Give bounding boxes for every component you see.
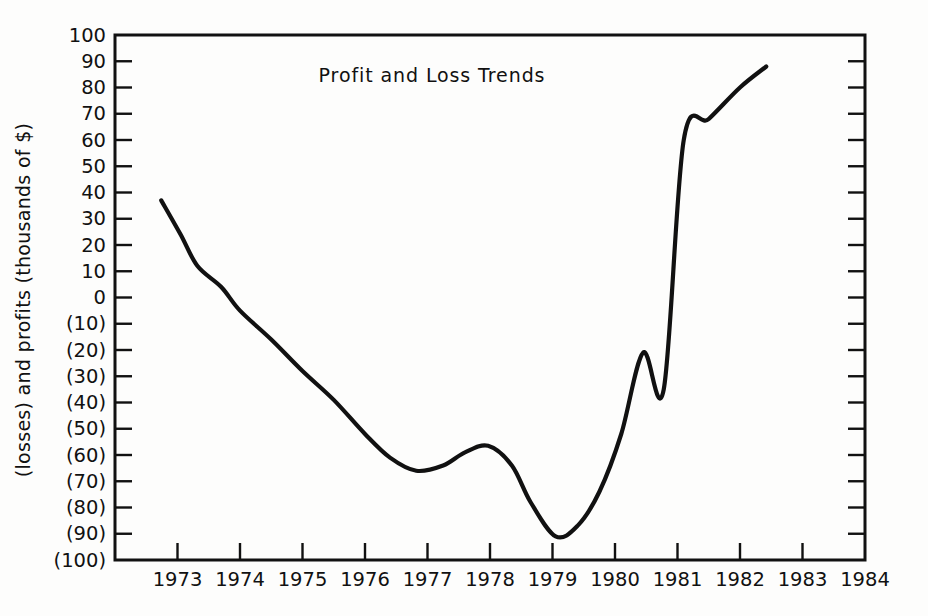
y-tick-label: 30 — [81, 207, 106, 230]
x-tick-label: 1982 — [715, 568, 765, 591]
y-tick-label: (40) — [66, 391, 106, 414]
y-tick-label: (50) — [66, 417, 106, 440]
y-tick-label: (30) — [66, 365, 106, 388]
y-axis-label: (losses) and profits (thousands of $) — [12, 123, 34, 477]
x-tick-label: 1984 — [840, 568, 890, 591]
x-tick-label: 1975 — [278, 568, 328, 591]
data-series-line — [161, 67, 766, 538]
y-tick-label: (90) — [66, 522, 106, 545]
y-tick-label: 0 — [94, 286, 106, 309]
y-tick-label: 90 — [81, 50, 106, 73]
y-tick-label: (60) — [66, 444, 106, 467]
y-tick-label: (20) — [66, 339, 106, 362]
x-tick-label: 1980 — [590, 568, 640, 591]
x-axis-ticks — [178, 543, 803, 560]
y-tick-label: 20 — [81, 234, 106, 257]
x-tick-label: 1983 — [778, 568, 828, 591]
x-tick-label: 1977 — [403, 568, 453, 591]
y-tick-label: 10 — [81, 260, 106, 283]
x-tick-label: 1981 — [653, 568, 703, 591]
x-axis-tick-labels: 1973197419751976197719781979198019811982… — [153, 568, 890, 591]
y-axis-ticks — [115, 61, 132, 534]
y-tick-label: 60 — [81, 129, 106, 152]
y-tick-label: 40 — [81, 181, 106, 204]
x-tick-label: 1979 — [528, 568, 578, 591]
y-tick-label: (80) — [66, 496, 106, 519]
y-tick-label: 80 — [81, 76, 106, 99]
y-tick-label: (10) — [66, 312, 106, 335]
x-tick-label: 1976 — [340, 568, 390, 591]
profit-loss-line-chart: 1009080706050403020100(10)(20)(30)(40)(5… — [0, 0, 928, 616]
y-axis-ticks-right — [848, 61, 865, 534]
y-tick-label: (70) — [66, 470, 106, 493]
y-tick-label: 70 — [81, 102, 106, 125]
x-tick-label: 1978 — [465, 568, 515, 591]
chart-title: Profit and Loss Trends — [319, 64, 546, 86]
y-tick-label: 50 — [81, 155, 106, 178]
y-axis-tick-labels: 1009080706050403020100(10)(20)(30)(40)(5… — [54, 24, 106, 572]
x-tick-label: 1973 — [153, 568, 203, 591]
y-tick-label: (100) — [54, 549, 106, 572]
x-tick-label: 1974 — [215, 568, 265, 591]
y-tick-label: 100 — [69, 24, 106, 47]
chart-page: 1009080706050403020100(10)(20)(30)(40)(5… — [0, 0, 928, 616]
